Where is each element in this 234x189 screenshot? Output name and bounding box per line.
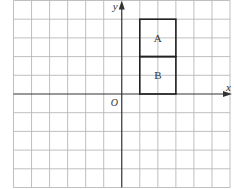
coordinate-grid-diagram: x y O A B: [0, 0, 234, 189]
y-axis-label: y: [112, 0, 118, 12]
rectangle-b-label: B: [154, 69, 161, 81]
x-axis-label: x: [225, 81, 231, 93]
y-axis-arrow-icon: [119, 1, 125, 10]
rectangle-a-label: A: [154, 32, 162, 44]
origin-label: O: [111, 97, 118, 108]
axes: x y O: [14, 0, 233, 188]
